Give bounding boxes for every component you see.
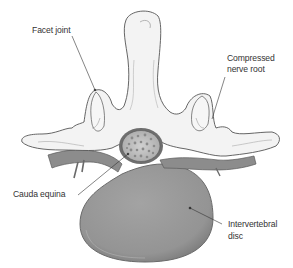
facet-joint-leader xyxy=(72,36,95,90)
compressed-nerve-root-label-line1: Compressed xyxy=(227,53,275,64)
facet-joint-label: Facet joint xyxy=(32,25,71,36)
intervertebral-disc-label-line2: disc xyxy=(228,231,243,242)
intervertebral-disc-label-line1: Intervertebral xyxy=(228,219,277,230)
cauda-equina-label: Cauda equina xyxy=(13,189,65,200)
compressed-nerve-root-leader xyxy=(212,77,225,119)
cauda-equina xyxy=(119,128,163,164)
intervertebral-disc xyxy=(80,164,213,262)
compressed-nerve-root-label-line2: nerve root xyxy=(227,64,265,75)
